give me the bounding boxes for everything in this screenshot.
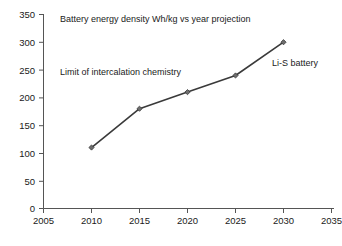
y-tick-label: 100 [19, 148, 35, 159]
x-tick-label: 2005 [33, 215, 54, 226]
x-tick-label: 2025 [225, 215, 246, 226]
li-s-battery-annotation: Li-S battery [272, 58, 319, 68]
x-tick-label: 2030 [273, 215, 294, 226]
x-tick-label: 2015 [129, 215, 150, 226]
y-tick-label: 50 [24, 176, 35, 187]
intercalation-limit-annotation: Limit of intercalation chemistry [60, 67, 182, 77]
data-point-marker [185, 90, 190, 95]
y-tick-label: 250 [19, 65, 35, 76]
chart-figure: 350 300 250 200 150 100 50 0 2005 2010 2… [0, 0, 342, 246]
y-tick-label: 300 [19, 37, 35, 48]
y-tick-label: 350 [19, 9, 35, 20]
data-marker-group [89, 40, 286, 151]
y-tick-label: 150 [19, 120, 35, 131]
chart-title: Battery energy density Wh/kg vs year pro… [60, 14, 251, 24]
x-tick-label: 2020 [177, 215, 198, 226]
x-tick-label: 2010 [81, 215, 102, 226]
y-tick-label: 200 [19, 92, 35, 103]
x-tick-label: 2035 [321, 215, 342, 226]
y-tick-label: 0 [30, 203, 35, 214]
chart-plot-area: 350 300 250 200 150 100 50 0 2005 2010 2… [0, 0, 342, 246]
